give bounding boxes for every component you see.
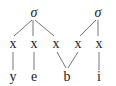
- edge-sigma1-x3: [35, 20, 54, 36]
- segment-y: y: [10, 70, 17, 84]
- segment-b: b: [64, 70, 71, 84]
- edge-x4-b: [68, 52, 78, 68]
- syllable-diagram: σ σ x x x x x y e b i: [0, 0, 116, 86]
- timing-slot-4: x: [75, 37, 82, 51]
- syllable-node-1: σ: [31, 6, 38, 20]
- edge-x3-b: [57, 52, 66, 68]
- timing-slot-2: x: [31, 37, 38, 51]
- edge-sigma1-x1: [14, 20, 32, 36]
- syllable-node-2: σ: [95, 6, 102, 20]
- edge-sigma2-x4: [80, 20, 96, 36]
- segment-i: i: [97, 70, 101, 84]
- segment-e: e: [31, 70, 37, 84]
- timing-slot-3: x: [53, 37, 60, 51]
- timing-slot-5: x: [96, 37, 103, 51]
- timing-slot-1: x: [10, 37, 17, 51]
